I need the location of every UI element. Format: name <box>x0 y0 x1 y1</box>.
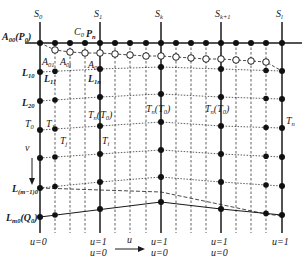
top-point <box>188 40 194 46</box>
top-point <box>248 40 254 46</box>
open-point <box>203 56 210 63</box>
grid-point <box>218 66 224 72</box>
top-point <box>218 40 224 46</box>
label-lm10: L(m−1)0 <box>11 183 39 196</box>
grid-point <box>158 119 164 125</box>
label-l11: L11 <box>43 73 56 85</box>
parameter-label: u=1 <box>272 236 289 247</box>
label-t0: T0 <box>25 118 35 130</box>
open-point <box>233 57 240 64</box>
grid-point <box>279 68 285 74</box>
top-point <box>279 40 285 46</box>
grid-point <box>52 212 58 218</box>
label-l20: L20 <box>21 97 35 109</box>
grid-point <box>97 206 103 212</box>
grid-point <box>279 183 285 189</box>
parameter-label: u=0 <box>211 247 228 258</box>
column-label-sl: Sl <box>276 8 283 20</box>
grid-point <box>158 64 164 70</box>
grid-point <box>218 179 224 185</box>
open-point <box>67 49 74 56</box>
parameter-labels: u=0u=1u=0u=1u=0u=1u=0u=1 <box>30 236 289 258</box>
grid-point <box>52 97 58 103</box>
top-point <box>233 40 239 46</box>
parameter-label: u=0 <box>90 247 107 258</box>
open-point <box>263 59 270 66</box>
grid-point <box>279 212 285 218</box>
grid-point <box>37 69 43 75</box>
top-point <box>67 40 73 46</box>
grid-point <box>37 155 43 161</box>
top-point <box>112 40 118 46</box>
label-a0n: A0n <box>87 59 101 71</box>
grid-point <box>263 68 269 74</box>
label-tn-t0-a: Tn(T0) <box>88 109 113 121</box>
grid-point <box>263 96 269 102</box>
open-point <box>97 50 104 57</box>
parameter-label: u=0 <box>151 247 168 258</box>
label-tn: Tn <box>286 115 295 127</box>
top-point <box>37 40 43 46</box>
top-point <box>143 40 149 46</box>
parameter-label: u=1 <box>90 236 107 247</box>
grid-point <box>37 214 43 220</box>
label-tj: Tj <box>60 135 68 147</box>
label-tn-t0-c: Tn(T0) <box>205 103 230 115</box>
column-label-s1: S1 <box>94 8 102 20</box>
grid-point <box>218 123 224 129</box>
top-point <box>82 40 88 46</box>
label-t1: T1 <box>46 118 55 130</box>
open-point <box>188 55 195 62</box>
open-point <box>248 58 255 65</box>
u-label: u <box>127 234 132 245</box>
parameter-label: u=1 <box>151 236 168 247</box>
label-pn: Pn <box>86 28 96 40</box>
grid-point <box>97 94 103 100</box>
open-point <box>158 53 165 60</box>
v-label: v <box>25 142 30 153</box>
grid-point <box>97 151 103 157</box>
column-label-sk: Sk <box>155 8 163 20</box>
grid-point <box>218 151 224 157</box>
open-point <box>52 47 59 54</box>
open-point <box>127 52 134 59</box>
grid-point <box>97 179 103 185</box>
parametric-grid-diagram: v u S0S1SkSk+1Sl A00(P0)C0PnA01A0jA0nL10… <box>0 0 302 263</box>
open-point <box>218 56 225 63</box>
grid-point <box>52 184 58 190</box>
top-point <box>173 40 179 46</box>
u-direction-arrow <box>115 246 145 252</box>
open-point <box>112 51 119 58</box>
grid-point <box>263 182 269 188</box>
top-point <box>158 40 164 46</box>
grid-point <box>263 153 269 159</box>
open-point <box>143 53 150 60</box>
grid-point <box>263 211 269 217</box>
grid-point <box>263 125 269 131</box>
label-a01: A01 <box>41 56 55 68</box>
grid-point <box>158 174 164 180</box>
grid-point <box>52 154 58 160</box>
column-label-s0: S0 <box>34 8 43 20</box>
label-lm0: Lm0(Q0) <box>5 212 38 224</box>
parameter-label: u=0 <box>30 236 47 247</box>
grid-point <box>279 154 285 160</box>
grid-point <box>218 206 224 212</box>
grid-point <box>158 147 164 153</box>
column-labels: S0S1SkSk+1Sl <box>34 8 283 20</box>
grid-point <box>218 94 224 100</box>
grid-point <box>158 199 164 205</box>
top-point <box>263 40 269 46</box>
top-point <box>97 40 103 46</box>
grid-point <box>37 98 43 104</box>
label-l1n: L1n <box>87 73 101 85</box>
label-c0: C0 <box>74 26 85 38</box>
grid-point <box>52 69 58 75</box>
open-point <box>173 54 180 61</box>
grid-point <box>97 123 103 129</box>
parameter-label: u=1 <box>211 236 228 247</box>
top-point <box>203 40 209 46</box>
grid-point <box>37 127 43 133</box>
label-ti: Ti <box>102 135 110 147</box>
open-point <box>82 50 89 57</box>
